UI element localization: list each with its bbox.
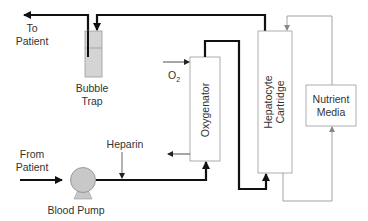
o2-inlet: O2 <box>163 62 189 83</box>
nutrient-media-box: Nutrient Media <box>306 85 356 126</box>
extracorporeal-liver-circuit-diagram: Oxygenator Hepatocyte Cartridge Nutrient… <box>0 0 368 221</box>
to-patient-label-2: Patient <box>16 35 49 47</box>
oxygenator-box: Oxygenator <box>190 57 220 161</box>
heparin-label: Heparin <box>107 138 144 150</box>
blood-pump-label: Blood Pump <box>47 204 104 216</box>
nutrient-label-2: Media <box>317 106 346 118</box>
bubble-trap-label-2: Trap <box>81 95 102 107</box>
heparin-inlet: Heparin <box>107 138 144 178</box>
bubble-trap <box>85 31 102 77</box>
cartridge-to-trap-line <box>97 15 265 32</box>
hepatocyte-cartridge-box: Hepatocyte Cartridge <box>258 31 292 173</box>
nutrient-label-1: Nutrient <box>313 93 350 105</box>
pump-to-oxygenator-line <box>96 162 206 180</box>
from-patient-label-2: Patient <box>16 161 49 173</box>
blood-pump: Blood Pump <box>47 168 104 217</box>
hepatocyte-label-1: Hepatocyte <box>262 75 274 128</box>
oxygenator-label: Oxygenator <box>199 82 211 137</box>
from-patient-label-1: From <box>20 148 45 160</box>
to-patient-label-1: To <box>26 22 37 34</box>
from-patient-inlet: From Patient <box>16 148 62 180</box>
o2-label: O2 <box>168 69 180 83</box>
bubble-trap-label-1: Bubble <box>76 82 109 94</box>
hepatocyte-label-2: Cartridge <box>274 80 286 123</box>
